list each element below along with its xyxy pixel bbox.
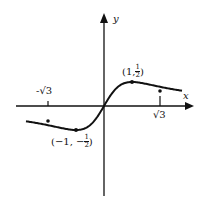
max-point	[130, 80, 134, 84]
min-point	[74, 128, 78, 132]
tick-label-pos-sqrt3: √3	[153, 110, 166, 120]
x-axis-label: x	[183, 91, 189, 101]
tick-label-neg-sqrt3: -√3	[36, 86, 52, 96]
graph-canvas	[0, 0, 204, 211]
inflection-point-pos	[158, 89, 162, 93]
y-axis-label: y	[113, 14, 119, 24]
min-point-label: (−1, − 1 2 )	[51, 134, 93, 149]
y-axis-arrow-icon	[100, 13, 108, 23]
inflection-point-neg	[46, 119, 50, 123]
x-axis-arrow-icon	[185, 102, 194, 110]
max-point-label: (1, 1 2 )	[122, 64, 144, 79]
